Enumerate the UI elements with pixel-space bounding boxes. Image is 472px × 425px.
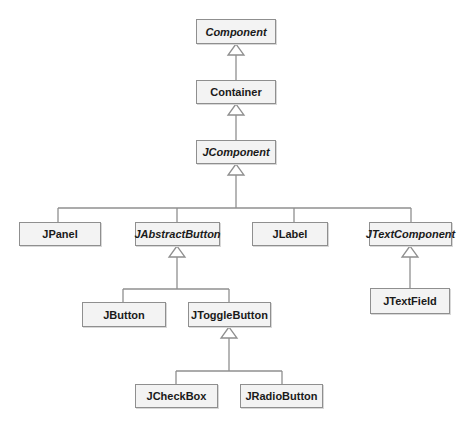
inheritance-arrow-icon: [228, 164, 244, 175]
class-jlabel: JLabel: [252, 222, 328, 246]
class-jbutton: JButton: [82, 302, 166, 327]
inheritance-arrow-icon: [169, 246, 185, 257]
class-jtogglebutton: JToggleButton: [188, 302, 271, 327]
class-jradiobutton: JRadioButton: [240, 384, 323, 408]
class-component: Component: [196, 19, 276, 44]
inheritance-arrow-icon: [402, 246, 418, 257]
inheritance-arrow-icon: [228, 104, 244, 115]
inheritance-arrow-icon: [228, 44, 244, 55]
inheritance-arrow-icon: [221, 327, 237, 338]
class-jcomponent: JComponent: [196, 140, 276, 164]
class-jtextcomponent: JTextComponent: [369, 222, 452, 246]
inheritance-connectors: [0, 0, 472, 425]
class-jtextfield: JTextField: [370, 288, 450, 314]
class-jpanel: JPanel: [19, 222, 101, 246]
class-container: Container: [196, 80, 276, 104]
class-jcheckbox: JCheckBox: [135, 384, 218, 408]
class-diagram: Component Container JComponent JPanel JA…: [0, 0, 472, 425]
class-jabstractbutton: JAbstractButton: [135, 222, 220, 246]
